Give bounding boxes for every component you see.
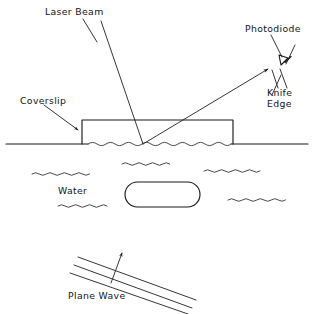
label-coverslip: Coverslip bbox=[20, 95, 66, 106]
coverslip-leader-line bbox=[44, 105, 78, 130]
water-squiggle-1 bbox=[32, 173, 90, 176]
plane-wave-propagation-arrow bbox=[111, 253, 122, 283]
photodiode-leader-line bbox=[271, 35, 282, 57]
water-squiggle-3 bbox=[204, 170, 260, 173]
plane-wave-fronts bbox=[70, 257, 196, 314]
label-knife: Knife bbox=[267, 87, 292, 98]
label-laser-beam: Laser Beam bbox=[45, 6, 104, 17]
optics-diagram-figure: Laser Beam Photodiode Knife Edge Coversl… bbox=[0, 0, 314, 314]
coverslip-rectangle bbox=[82, 120, 233, 144]
diagram-canvas: Laser Beam Photodiode Knife Edge Coversl… bbox=[0, 0, 314, 314]
water-squiggle-2 bbox=[122, 163, 170, 166]
label-photodiode: Photodiode bbox=[245, 23, 301, 34]
water-bubble-oval bbox=[125, 182, 200, 207]
laser-beam-leader-line bbox=[83, 19, 97, 42]
label-water: Water bbox=[58, 185, 87, 196]
water-squiggle-5 bbox=[228, 199, 286, 202]
label-plane-wave: Plane Wave bbox=[68, 290, 125, 301]
water-surface-line bbox=[6, 142, 308, 145]
reflected-laser-beam bbox=[143, 69, 268, 144]
water-squiggle-4 bbox=[58, 205, 107, 208]
incident-laser-beam bbox=[101, 21, 143, 144]
label-edge: Edge bbox=[267, 98, 292, 109]
